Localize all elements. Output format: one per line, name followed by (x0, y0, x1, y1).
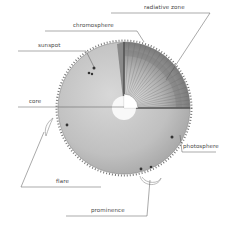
label-photosphere: photosphere (183, 143, 219, 149)
sun-illustration (0, 0, 228, 235)
label-flare: flare (56, 178, 69, 184)
label-radiative-zone: radiative zone (144, 4, 185, 10)
flare-illustration (45, 118, 53, 136)
prominence-illustration (140, 176, 161, 185)
sun-structure-diagram: radiative zone chromosphere sunspot core… (0, 0, 228, 235)
label-chromosphere: chromosphere (73, 22, 114, 28)
label-sunspot: sunspot (38, 42, 60, 48)
label-core: core (29, 98, 41, 104)
label-prominence: prominence (91, 207, 125, 213)
